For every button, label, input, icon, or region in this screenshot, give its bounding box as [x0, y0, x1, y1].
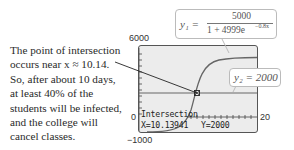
y1-denominator: 1 + 4999e [207, 25, 245, 35]
x-min-label: 0 [131, 112, 136, 122]
y1-numerator: 5000 [232, 11, 251, 21]
caption-line: students will be infected, [10, 101, 130, 115]
y-max-label: 6000 [129, 33, 149, 43]
y2-callout: y₂ = 2000 [229, 68, 281, 87]
caption-line: The point of intersection [10, 43, 130, 57]
caption-line: and the college will [10, 115, 130, 129]
y1-callout: y₁ = 5000 1 + 4999e −0.8x [175, 9, 277, 39]
caption-text: The point of intersection occurs near x … [10, 43, 130, 144]
caption-line: cancel classes. [10, 129, 130, 143]
intersection-label: Intersection [141, 109, 198, 119]
caption-line: So, after about 10 days, [10, 72, 130, 86]
y-min-label: −1000 [127, 135, 152, 145]
x-max-label: 20 [260, 112, 270, 122]
y1-exponent: −0.8x [255, 23, 269, 29]
y1-lhs: y₁ = [180, 18, 199, 30]
y-readout: Y=2000 [201, 120, 229, 130]
caption-line: at least 40% of the [10, 86, 130, 100]
y2-label: y₂ = 2000 [234, 71, 278, 83]
caption-line: occurs near x ≈ 10.14. [10, 57, 130, 71]
calculator-screen: Intersection X=10.13941 Y=2000 [138, 45, 258, 133]
x-readout: X=10.13941 [141, 120, 188, 130]
